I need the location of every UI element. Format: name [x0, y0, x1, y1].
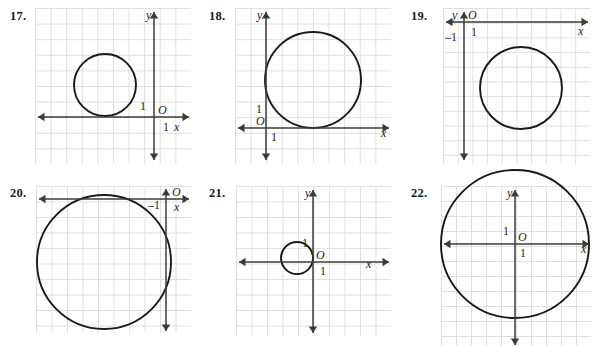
origin-label-p21: O [316, 248, 325, 262]
worksheet-canvas: 17.18.19.20.21.22.yOx11yOx11yOx1–1Ox–1yO… [0, 0, 605, 346]
x-tick-one-p17: 1 [163, 120, 169, 134]
x-axis-label-p19: x [577, 24, 584, 38]
y-axis-label-p19: y [451, 8, 458, 22]
x-tick-one-p21: 1 [320, 264, 326, 278]
origin-label-p22: O [518, 230, 527, 244]
y-axis-label-p17: y [145, 8, 152, 22]
panel-graphics-p21: yOx11 [239, 186, 389, 333]
circle-curve-p18 [265, 32, 361, 128]
panel-graphics-p19: yOx1–1 [444, 8, 588, 160]
y-axis-label-p18: y [256, 8, 263, 22]
y-tick-one-p22: 1 [503, 224, 509, 238]
circle-curve-p17 [74, 54, 136, 116]
x-axis-label-p20: x [173, 200, 180, 214]
panel-graphics-p22: yOx11 [441, 170, 589, 345]
x-tick-one-p22: 1 [520, 246, 526, 260]
y-tick-neg-one-p19: –1 [444, 30, 457, 44]
y-tick-one-p18: 1 [256, 102, 262, 116]
y-axis-label-p21: y [304, 186, 311, 200]
y-axis-label-p22: y [506, 186, 513, 200]
origin-label-p20: O [172, 185, 181, 199]
circle-curve-p21 [281, 242, 313, 274]
panel-graphics-p18: yOx11 [238, 8, 389, 160]
origin-label-p17: O [158, 103, 167, 117]
origin-label-p18: O [256, 114, 265, 128]
panel-graphics-p17: yOx11 [38, 8, 189, 160]
circle-curve-p19 [480, 47, 562, 129]
origin-label-p19: O [468, 8, 477, 22]
x-tick-one-p19: 1 [471, 25, 477, 39]
x-axis-label-p18: x [380, 126, 387, 140]
x-tick-neg-one-p20: –1 [147, 198, 160, 212]
panel-graphics-p20: Ox–1 [37, 185, 189, 331]
y-tick-one-p21: 1 [302, 236, 308, 250]
x-axis-label-p21: x [365, 257, 372, 271]
x-axis-label-p22: x [580, 242, 587, 256]
x-axis-label-p17: x [173, 120, 180, 134]
circle-curve-p20 [37, 195, 171, 329]
y-tick-one-p17: 1 [140, 99, 146, 113]
x-tick-one-p18: 1 [271, 130, 277, 144]
graphics-overlay: yOx11yOx11yOx1–1Ox–1yOx11yOx11 [0, 0, 605, 346]
